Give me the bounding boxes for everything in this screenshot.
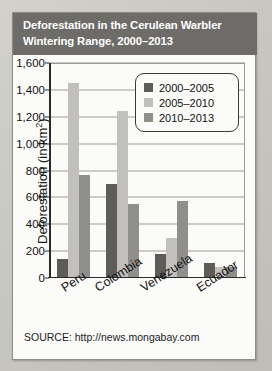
y-tick-label: 0	[1, 272, 45, 284]
legend-label: 2000–2005	[159, 82, 214, 94]
legend-label: 2005–2010	[159, 97, 214, 109]
bar-group	[49, 63, 98, 278]
bar	[79, 175, 90, 278]
y-tick-label: 600	[1, 191, 45, 203]
y-axis-title-exponent: 2	[34, 123, 44, 128]
x-label-cell: Colombia	[98, 281, 147, 337]
y-axis-line	[49, 63, 51, 278]
chart-card: Deforestation in the Cerulean Warbler Wi…	[12, 12, 256, 360]
y-tick-label: 1,400	[1, 84, 45, 96]
bar	[106, 184, 117, 278]
legend-item: 2010–2013	[144, 110, 231, 125]
y-axis-title: Deforestation (in km2)	[34, 106, 50, 256]
bar	[57, 259, 68, 278]
chart-title-line-1: Deforestation in the Cerulean Warbler	[23, 18, 247, 34]
chart-title-line-2: Wintering Range, 2000–2013	[23, 34, 247, 50]
x-label-cell: Venezuela	[147, 281, 196, 337]
legend-swatch-icon	[144, 83, 153, 92]
bar	[68, 83, 79, 278]
legend-item: 2005–2010	[144, 95, 231, 110]
x-label-cell: Peru	[49, 281, 98, 337]
y-tick-label: 1,000	[1, 138, 45, 150]
chart-legend: 2000–2005 2005–2010 2010–2013	[135, 73, 239, 132]
y-tick-label: 400	[1, 218, 45, 230]
plot-area: Deforestation (in km2) 1,6001,4001,2001,…	[13, 55, 257, 361]
bar	[117, 111, 128, 278]
y-tick-label: 200	[1, 245, 45, 257]
chart-title-bar: Deforestation in the Cerulean Warbler Wi…	[13, 13, 257, 55]
y-tick-label: 1,600	[1, 57, 45, 69]
x-axis-labels: PeruColombiaVenezuelaEcuador	[49, 281, 245, 337]
y-tick-label: 1,200	[1, 111, 45, 123]
legend-label: 2010–2013	[159, 112, 214, 124]
legend-swatch-icon	[144, 113, 153, 122]
page-background: Deforestation in the Cerulean Warbler Wi…	[0, 0, 272, 371]
x-label-cell: Ecuador	[196, 281, 245, 337]
y-tick-label: 800	[1, 165, 45, 177]
legend-swatch-icon	[144, 98, 153, 107]
source-note: SOURCE: http://news.mongabay.com	[24, 331, 254, 343]
legend-item: 2000–2005	[144, 80, 231, 95]
